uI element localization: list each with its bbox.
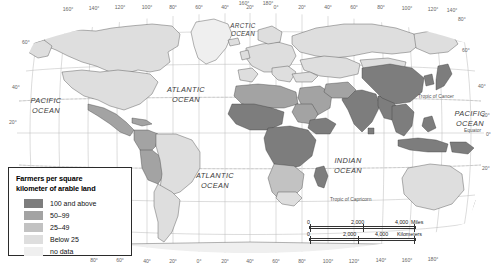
longitude-labels-top-extra: 160°180° <box>239 0 274 6</box>
svg-text:120°: 120° <box>115 4 126 10</box>
svg-text:60°: 60° <box>116 257 124 263</box>
legend-label-no-data: no data <box>50 248 73 255</box>
legend-item-50-99: 50–99 <box>16 209 124 221</box>
scale-miles: 0 2,000 4,000 Miles <box>305 219 429 230</box>
legend-title-line2: kilometer of arable land <box>16 184 124 194</box>
region-siberia-east <box>414 30 458 54</box>
legend-swatch-no-data <box>24 247 43 256</box>
region-new-zealand <box>472 198 486 218</box>
legend-item-below-25: Below 25 <box>16 233 124 245</box>
scale-km-tick-4000: 4,000 <box>375 231 388 237</box>
latitude-labels-left: 60° 40° 20° <box>9 39 30 125</box>
ocean-label-arctic-line2: OCEAN <box>231 30 255 37</box>
longitude-labels-bottom: 80°60° 40°20° 0°20° 40°60° 80°100° 120°1… <box>90 256 438 264</box>
scale-km-tick-0: 0 <box>307 231 310 237</box>
longitude-labels-top: 160°140° 120°100° 80°60° 40°20° 0°20° 40… <box>63 4 458 13</box>
legend-swatch-50-99 <box>24 211 43 220</box>
scale-kilometers-bar <box>309 238 416 241</box>
legend-swatch-100-and-above <box>24 199 43 208</box>
map-legend: Farmers per square kilometer of arable l… <box>8 167 132 256</box>
legend-title-line1: Farmers per square <box>16 174 124 184</box>
scale-km-tick-2000: 2,000 <box>343 231 356 237</box>
svg-text:40°: 40° <box>221 4 229 10</box>
svg-text:40°: 40° <box>12 84 20 90</box>
scale-miles-tick-4000: 4,000 <box>395 219 408 225</box>
svg-text:140°: 140° <box>376 257 387 263</box>
svg-text:100°: 100° <box>142 4 153 10</box>
svg-text:100°: 100° <box>402 5 413 11</box>
legend-items: 100 and above 50–99 25–49 Below 25 no da… <box>16 197 124 257</box>
equator-label: Equator <box>464 128 482 133</box>
region-russia <box>292 24 420 58</box>
tropic-of-capricorn-label: Tropic of Capricorn <box>330 197 372 202</box>
svg-text:0°: 0° <box>486 131 491 137</box>
legend-label-50-99: 50–99 <box>50 212 69 219</box>
svg-text:40°: 40° <box>478 83 486 89</box>
svg-text:80°: 80° <box>298 258 306 264</box>
svg-text:140°: 140° <box>447 7 458 13</box>
svg-text:80°: 80° <box>90 257 98 263</box>
svg-text:20°: 20° <box>221 258 229 264</box>
region-british-isles <box>240 50 250 60</box>
legend-title: Farmers per square kilometer of arable l… <box>16 174 124 193</box>
svg-text:80°: 80° <box>169 4 177 10</box>
ocean-label-indian-line1: INDIAN <box>334 156 361 165</box>
svg-text:180°: 180° <box>263 0 274 6</box>
svg-text:60°: 60° <box>272 258 280 264</box>
ocean-label-pacific-west-line2: OCEAN <box>32 106 60 115</box>
ocean-label-arctic-line1: ARCTIC <box>229 22 256 29</box>
ocean-label-pacific-west-line1: PACIFIC <box>30 96 61 105</box>
ocean-label-atlantic-south-line2: OCEAN <box>201 181 229 190</box>
svg-text:40°: 40° <box>143 258 151 264</box>
svg-text:120°: 120° <box>428 6 439 12</box>
svg-text:60°: 60° <box>350 4 358 10</box>
region-madagascar <box>314 166 328 188</box>
svg-text:60°: 60° <box>462 47 470 53</box>
ocean-label-pacific-east-line2: OCEAN <box>456 119 484 128</box>
svg-text:40°: 40° <box>246 258 254 264</box>
svg-text:60°: 60° <box>195 4 203 10</box>
region-horn-of-africa <box>308 118 336 134</box>
world-map: 160°140° 120°100° 80°60° 40°20° 0°20° 40… <box>0 0 501 267</box>
region-scandinavia <box>258 26 282 44</box>
svg-text:80°: 80° <box>377 4 385 10</box>
legend-item-100-and-above: 100 and above <box>16 197 124 209</box>
scale-km-unit: Kilometers <box>397 231 422 237</box>
svg-text:160°: 160° <box>63 6 74 12</box>
svg-text:60°: 60° <box>22 39 30 45</box>
scale-kilometers: 0 2,000 4,000 Kilometers <box>305 231 429 242</box>
ocean-label-atlantic-north-line1: ATLANTIC <box>166 85 205 94</box>
region-indonesia <box>398 138 448 152</box>
ocean-label-pacific-east-line1: PACIFIC <box>454 109 485 118</box>
svg-text:180°: 180° <box>428 256 439 262</box>
region-sri-lanka <box>368 128 374 134</box>
region-korea <box>424 74 434 86</box>
region-iberia <box>238 68 258 82</box>
legend-label-below-25: Below 25 <box>50 236 79 243</box>
svg-text:20°: 20° <box>169 258 177 264</box>
svg-text:160°: 160° <box>239 0 250 6</box>
svg-text:20°: 20° <box>298 4 306 10</box>
region-caribbean <box>132 118 152 126</box>
svg-text:120°: 120° <box>349 258 360 264</box>
region-southeast-asia <box>392 104 414 136</box>
ocean-label-indian-line2: OCEAN <box>334 166 362 175</box>
svg-text:40°: 40° <box>324 4 332 10</box>
legend-swatch-25-49 <box>24 223 43 232</box>
ocean-label-atlantic-north-line2: OCEAN <box>172 95 200 104</box>
scale-miles-bar <box>309 226 416 229</box>
scale-miles-tick-0: 0 <box>307 219 310 225</box>
region-japan <box>436 64 452 90</box>
region-central-east-africa <box>264 126 316 170</box>
svg-text:0°: 0° <box>274 4 279 10</box>
region-greenland <box>191 19 232 64</box>
svg-text:80°: 80° <box>458 16 466 22</box>
legend-item-25-49: 25–49 <box>16 221 124 233</box>
ocean-label-atlantic-south-line1: ATLANTIC <box>195 171 234 180</box>
legend-label-100-and-above: 100 and above <box>50 200 96 207</box>
map-scale: 0 2,000 4,000 Miles 0 2,000 4,000 Kilome… <box>305 219 429 242</box>
legend-item-no-data: no data <box>16 245 124 257</box>
scale-miles-unit: Miles <box>411 219 423 225</box>
region-papua-new-guinea <box>450 142 474 154</box>
region-canada <box>44 24 180 74</box>
